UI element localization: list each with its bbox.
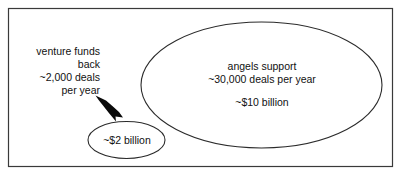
arrow-icon [96, 96, 124, 122]
venture-label-line-3: ~2,000 deals [40, 71, 100, 83]
angels-label-line-2: ~30,000 deals per year [208, 73, 316, 85]
angels-ellipse [141, 22, 382, 148]
venture-label-line-1: venture funds [36, 45, 100, 57]
venture-label-line-2: back [78, 58, 101, 70]
angels-label-line-1: angels support [228, 60, 297, 72]
venture-label-line-4: per year [61, 84, 100, 96]
diagram-figure: venture funds back ~2,000 deals per year… [0, 0, 405, 182]
angels-amount-label: ~$10 billion [235, 96, 289, 108]
venture-amount-label: ~$2 billion [103, 134, 151, 146]
